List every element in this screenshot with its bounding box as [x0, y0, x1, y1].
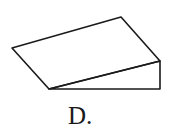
- wedge-top-face: [12, 17, 160, 89]
- figure-label: D.: [68, 101, 92, 131]
- wedge-side-face: [49, 61, 160, 89]
